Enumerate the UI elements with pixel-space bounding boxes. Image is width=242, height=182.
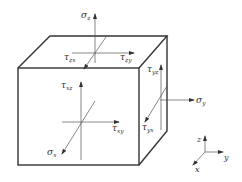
- tau-xz-label: τxz: [61, 80, 73, 91]
- right-face-stresses: τyz σy τyx: [142, 64, 206, 134]
- tau-zx-label: τzx: [64, 52, 76, 63]
- stress-cube-diagram: σz τzx τzy τxz τxy σx τyz σy τyx z y x: [0, 0, 242, 182]
- tau-yx-arrow: [145, 86, 167, 122]
- front-face: [18, 68, 139, 165]
- x-axis-label: x: [195, 165, 200, 174]
- top-face: [18, 36, 167, 68]
- z-axis-label: z: [196, 135, 202, 144]
- tau-yz-label: τyz: [147, 64, 159, 76]
- sigma-z-label: σz: [81, 10, 91, 21]
- right-face: [139, 36, 167, 165]
- sigma-x-arrow: [62, 101, 95, 154]
- tau-zy-label: τzy: [120, 52, 132, 64]
- y-axis-label: y: [223, 153, 229, 162]
- x-axis-arrow: [193, 152, 205, 165]
- sigma-x-label: σx: [47, 147, 57, 158]
- axis-triad: z y x: [193, 135, 229, 174]
- tau-yx-label: τyx: [142, 122, 154, 134]
- sigma-y-label: σy: [196, 95, 206, 107]
- cube: [18, 36, 167, 165]
- tau-xy-label: τxy: [112, 123, 124, 135]
- top-face-stresses: σz τzx τzy: [64, 10, 134, 69]
- front-face-stresses: τxz τxy σx: [47, 80, 124, 160]
